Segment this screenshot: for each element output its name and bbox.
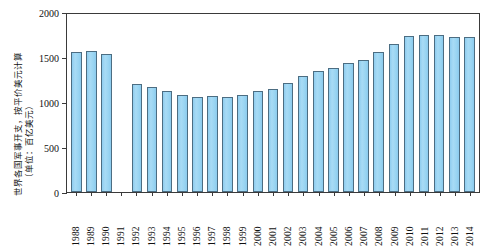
x-tick-slot: 2010 [402, 196, 417, 246]
bar [313, 71, 324, 192]
bar-slot [84, 14, 99, 192]
bar-slot [341, 14, 356, 192]
x-tick-label: 1991 [116, 199, 126, 246]
x-tick-slot: 1993 [144, 196, 159, 246]
x-tick-slot: 1990 [98, 196, 113, 246]
x-tick-mark [91, 193, 92, 196]
bar [132, 84, 143, 192]
x-tick-slot: 2013 [448, 196, 463, 246]
x-tick-label: 2007 [359, 199, 369, 246]
x-tick-slot: 2012 [433, 196, 448, 246]
bar-slot [432, 14, 447, 192]
x-tick-mark [440, 193, 441, 196]
bar [449, 37, 460, 192]
bar-slot [175, 14, 190, 192]
x-tick-slot: 2001 [265, 196, 280, 246]
bar [434, 35, 445, 192]
bar-slot [371, 14, 386, 192]
x-tick-slot: 2002 [281, 196, 296, 246]
x-tick-mark [227, 193, 228, 196]
x-tick-mark [379, 193, 380, 196]
y-tick-label: 0 [0, 188, 66, 199]
x-tick-label: 1999 [238, 199, 248, 246]
bar [404, 36, 415, 192]
x-tick-slot: 1997 [205, 196, 220, 246]
x-tick-label: 1988 [71, 199, 81, 246]
bar-slot [356, 14, 371, 192]
x-tick-mark [197, 193, 198, 196]
bar [343, 63, 354, 192]
bar [283, 83, 294, 192]
y-axis-title-line-2: （单位：百亿美元） [22, 101, 34, 182]
x-tick-slot: 2006 [341, 196, 356, 246]
bar-slot [296, 14, 311, 192]
bar-slot [69, 14, 84, 192]
y-tick-label: 1500 [0, 53, 66, 64]
y-tick-label: 2000 [0, 8, 66, 19]
bar-slot [145, 14, 160, 192]
bar-slot [99, 14, 114, 192]
x-tick-label: 2002 [283, 199, 293, 246]
x-tick-mark [425, 193, 426, 196]
bar-slot [160, 14, 175, 192]
x-tick-slot: 1995 [174, 196, 189, 246]
bar [222, 97, 233, 192]
bar-slot [114, 14, 129, 192]
x-tick-mark [152, 193, 153, 196]
x-tick-label: 1995 [177, 199, 187, 246]
x-tick-slot: 1999 [235, 196, 250, 246]
x-tick-mark [349, 193, 350, 196]
bar [192, 97, 203, 192]
x-tick-slot: 1998 [220, 196, 235, 246]
bar [162, 91, 173, 192]
x-tick-slot: 1992 [129, 196, 144, 246]
bar-slot [190, 14, 205, 192]
x-tick-mark [121, 193, 122, 196]
x-tick-slot: 1996 [190, 196, 205, 246]
bar-slot [250, 14, 265, 192]
bar-slot [386, 14, 401, 192]
bar [298, 76, 309, 192]
bar [237, 95, 248, 192]
x-tick-slot: 2009 [387, 196, 402, 246]
x-tick-slot: 1989 [83, 196, 98, 246]
x-tick-slot: 1991 [114, 196, 129, 246]
bar [253, 91, 264, 192]
y-tick-label: 1000 [0, 98, 66, 109]
x-tick-label: 2012 [435, 199, 445, 246]
x-tick-label: 2014 [465, 199, 475, 246]
bar [419, 35, 430, 193]
x-tick-label: 1993 [147, 199, 157, 246]
x-tick-label: 1990 [101, 199, 111, 246]
x-tick-label: 1997 [207, 199, 217, 246]
x-tick-label: 2005 [329, 199, 339, 246]
x-tick-slot: 2007 [357, 196, 372, 246]
x-tick-label: 2006 [344, 199, 354, 246]
bar-slot [447, 14, 462, 192]
bar-series [67, 14, 479, 192]
x-tick-slot: 2000 [250, 196, 265, 246]
x-tick-label: 2008 [374, 199, 384, 246]
bar-slot [205, 14, 220, 192]
bar [389, 44, 400, 192]
x-tick-label: 2009 [390, 199, 400, 246]
x-tick-mark [334, 193, 335, 196]
plot-area [66, 13, 480, 193]
x-tick-slot: 1988 [68, 196, 83, 246]
bar-slot [311, 14, 326, 192]
x-tick-mark [136, 193, 137, 196]
x-axis-labels: 1988198919901991199219931994199519961997… [66, 196, 480, 246]
x-tick-label: 2000 [253, 199, 263, 246]
x-tick-slot: 2003 [296, 196, 311, 246]
x-tick-slot: 1994 [159, 196, 174, 246]
bar [177, 95, 188, 192]
x-tick-label: 2010 [405, 199, 415, 246]
bar [86, 51, 97, 192]
x-tick-mark [243, 193, 244, 196]
x-tick-label: 2011 [420, 199, 430, 246]
x-tick-mark [364, 193, 365, 196]
x-tick-label: 1989 [86, 199, 96, 246]
x-tick-mark [106, 193, 107, 196]
bar-slot [401, 14, 416, 192]
x-tick-slot: 2008 [372, 196, 387, 246]
